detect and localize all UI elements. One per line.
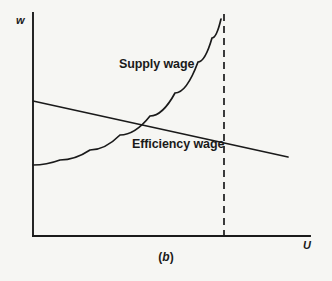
y-axis-label: w (16, 15, 25, 26)
panel-caption: (b) (0, 251, 332, 263)
supply-wage-label: Supply wage (119, 58, 194, 71)
efficiency-wage-figure: w U Supply wage Efficiency wage (b) (0, 0, 332, 281)
panel-caption-letter: b (162, 250, 169, 264)
x-axis-label: U (303, 240, 311, 251)
efficiency-wage-label: Efficiency wage (132, 138, 224, 151)
panel-caption-close-paren: ) (170, 250, 174, 264)
